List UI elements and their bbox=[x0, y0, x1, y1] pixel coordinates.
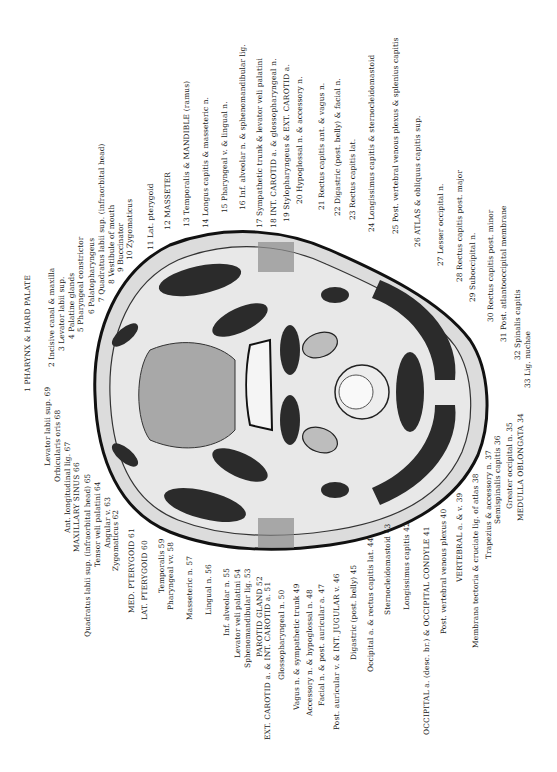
tongue bbox=[139, 343, 235, 448]
label-51: EXT. CAROTID a. & INT. CAROTID a. 51 bbox=[264, 582, 271, 740]
label-53: Sphenomandibular lig. 53 bbox=[244, 568, 251, 668]
label-63: Angular v. 63 bbox=[104, 497, 111, 548]
label-22: 22 Digastric (post. belly) & facial n. bbox=[334, 78, 341, 216]
label-8: 8 Vestibule of mouth bbox=[108, 205, 115, 284]
label-32: 32 Spinalis capitis bbox=[514, 289, 521, 360]
label-3: 3 Levator labii sup. bbox=[58, 277, 65, 351]
label-18: 18 INT. CAROTID a. & glossopharyngeal n. bbox=[270, 58, 277, 228]
label-14: 14 Longus capitis & masseteric n. bbox=[202, 97, 209, 228]
parotid-upper bbox=[258, 242, 294, 272]
label-33: 33 Lig. nuchae bbox=[524, 331, 531, 388]
label-19: 19 Stylopharyngeus & EXT. CAROTID a. bbox=[283, 64, 290, 222]
label-48: Accessory n. & hypoglossal n. 48 bbox=[306, 589, 313, 716]
label-41: OCCIPITAL a. (desc. br.) & OCCIPITAL CON… bbox=[423, 526, 430, 735]
label-52: PAROTID GLAND 52 bbox=[256, 576, 263, 657]
label-17: 17 Sympathetic trunk & levator veli pala… bbox=[256, 58, 263, 228]
label-38: Membrana tectoria & cruciate lig. of atl… bbox=[472, 473, 479, 648]
label-9: 9 Buccinator bbox=[117, 223, 124, 272]
label-61: MED. PTERYGOID 61 bbox=[128, 528, 135, 613]
label-7: 7 Quadratus labii sup. (infraorbital hea… bbox=[98, 143, 105, 302]
label-37: Trapezius & accessory n. 37 bbox=[485, 450, 492, 559]
parotid-lower bbox=[258, 518, 294, 548]
label-69: Levator labii sup. 69 bbox=[44, 387, 51, 466]
label-58: Pharyngeal vv. 58 bbox=[167, 542, 174, 610]
label-57: Masseteric n. 57 bbox=[186, 556, 193, 620]
label-25: 25 Post. vertebral venous plexus & splen… bbox=[392, 38, 399, 234]
label-13: 13 Temporalis & MANDIBLE (ramus) bbox=[183, 81, 190, 227]
label-34: MEDULLA OBLONGATA 34 bbox=[517, 413, 524, 521]
label-35: Greater occipital n. 35 bbox=[506, 422, 513, 509]
label-24: 24 Longissimus capitis & sternocleidomas… bbox=[368, 55, 375, 232]
label-60: LAT. PTERYGOID 60 bbox=[141, 540, 148, 620]
label-43: Sternocleidomastoid 43 bbox=[384, 524, 391, 615]
label-26: 26 ATLAS & obliquus capitis sup. bbox=[414, 115, 421, 247]
label-54: Levator veli palatini 54 bbox=[234, 569, 241, 658]
label-45: Digastric (post. belly) 45 bbox=[350, 565, 357, 660]
label-59: Temporalis 59 bbox=[158, 539, 165, 593]
label-49: Vagus n. & sympathetic trunk 49 bbox=[293, 584, 300, 710]
label-36: Semispinalis capitis 36 bbox=[494, 435, 501, 524]
label-30: 30 Rectus capitis post. minor bbox=[487, 210, 494, 322]
medulla-oblongata bbox=[339, 375, 373, 409]
label-6: 6 Palatopharyngeus bbox=[88, 238, 95, 314]
label-27: 27 Lesser occipital n. bbox=[437, 184, 444, 266]
pharynx bbox=[246, 340, 272, 430]
label-23: 23 Rectus capitis lat. bbox=[349, 139, 356, 220]
label-21: 21 Rectus capitis ant. & vagus n. bbox=[318, 83, 325, 210]
label-42: Longissimus capitis 42 bbox=[403, 522, 410, 610]
label-11: 11 Lat. pterygoid bbox=[147, 184, 154, 251]
label-44: Occipital a. & rectus capitis lat. 44 bbox=[367, 538, 374, 673]
label-1: 1 PHARYNX & HARD PALATE bbox=[24, 275, 31, 392]
label-15: 15 Pharyngeal v. & lingual n. bbox=[221, 101, 228, 213]
label-47: Facial n. & post. auricular a. 47 bbox=[318, 584, 325, 706]
label-67: Ant. longitudinal lig. 67 bbox=[64, 442, 71, 533]
label-50: Glossopharyngeal n. 50 bbox=[278, 590, 285, 680]
label-12: 12 MASSETER bbox=[164, 172, 171, 230]
label-2: 2 Incisive canal & maxilla bbox=[48, 268, 55, 367]
label-16: 16 Inf. alveolar n. & sphenomandibular l… bbox=[239, 44, 246, 210]
label-65: Quadratus labii sup. (infraorbital head)… bbox=[84, 474, 91, 637]
label-20: 20 Hypoglossal n. & accessory n. bbox=[296, 76, 303, 204]
label-31: 31 Post. atlantooccipital membrane bbox=[500, 205, 507, 342]
label-66: MAXILLARY SINUS 66 bbox=[73, 462, 80, 552]
label-40: Post. vertebral venous plexus 40 bbox=[440, 509, 447, 634]
label-46: Post. auricular v. & INT. JUGULAR v. 46 bbox=[333, 573, 340, 730]
label-4: 4 Palatine glands bbox=[68, 273, 75, 339]
label-68: Orbicularis oris 68 bbox=[54, 410, 61, 482]
label-39: VERTEBRAL a. & v. 39 bbox=[456, 492, 463, 582]
label-56: Lingual n. 56 bbox=[205, 564, 212, 615]
label-10: 10 Zygomaticus bbox=[126, 199, 133, 260]
label-55: Inf. alveolar n. 55 bbox=[223, 568, 230, 636]
label-62: Zygomaticus 62 bbox=[112, 510, 119, 571]
label-29: 29 Suboccipital n. bbox=[469, 233, 476, 303]
label-64: Tensor veli palatini 64 bbox=[94, 481, 101, 567]
label-5: 5 Pharyngeal constrictor bbox=[77, 237, 84, 332]
label-28: 28 Rectus capitis post. major bbox=[456, 170, 463, 282]
